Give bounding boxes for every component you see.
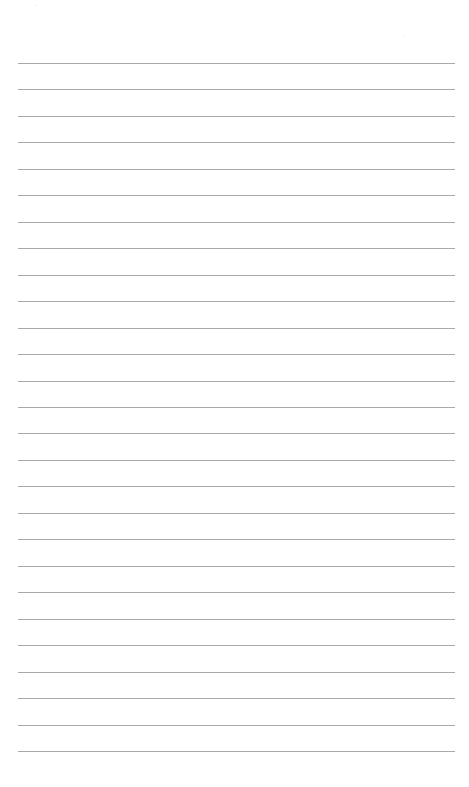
ruled-line (18, 89, 455, 90)
paper-speck (403, 35, 404, 36)
ruled-line (18, 592, 455, 593)
ruled-line (18, 645, 455, 646)
ruled-line (18, 169, 455, 170)
ruled-line (18, 195, 455, 196)
ruled-line (18, 619, 455, 620)
ruled-line (18, 566, 455, 567)
ruled-line (18, 222, 455, 223)
ruled-line (18, 381, 455, 382)
ruled-line (18, 460, 455, 461)
ruled-line (18, 539, 455, 540)
ruled-line (18, 725, 455, 726)
ruled-line (18, 301, 455, 302)
ruled-line (18, 275, 455, 276)
ruled-line (18, 433, 455, 434)
ruled-line (18, 751, 455, 752)
ruled-line (18, 513, 455, 514)
ruled-line (18, 486, 455, 487)
ruled-line (18, 248, 455, 249)
paper-speck (36, 5, 37, 6)
ruled-line (18, 116, 455, 117)
ruled-line (18, 698, 455, 699)
ruled-line (18, 407, 455, 408)
ruled-line (18, 142, 455, 143)
ruled-line (18, 672, 455, 673)
lined-paper-page (0, 0, 469, 787)
ruled-line (18, 63, 455, 64)
ruled-line (18, 354, 455, 355)
ruled-line (18, 328, 455, 329)
